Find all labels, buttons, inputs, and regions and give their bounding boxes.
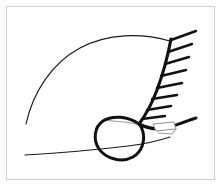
hatch-tick-3: [165, 57, 189, 64]
hatch-tick-1: [171, 31, 196, 40]
gray-callout-box: [153, 122, 176, 131]
figure-canvas: [0, 0, 222, 187]
hatch-tick-2: [168, 44, 192, 52]
closed-loop: [95, 117, 143, 160]
line-drawing: [0, 0, 222, 187]
thick-hatched-curve: [139, 39, 171, 124]
